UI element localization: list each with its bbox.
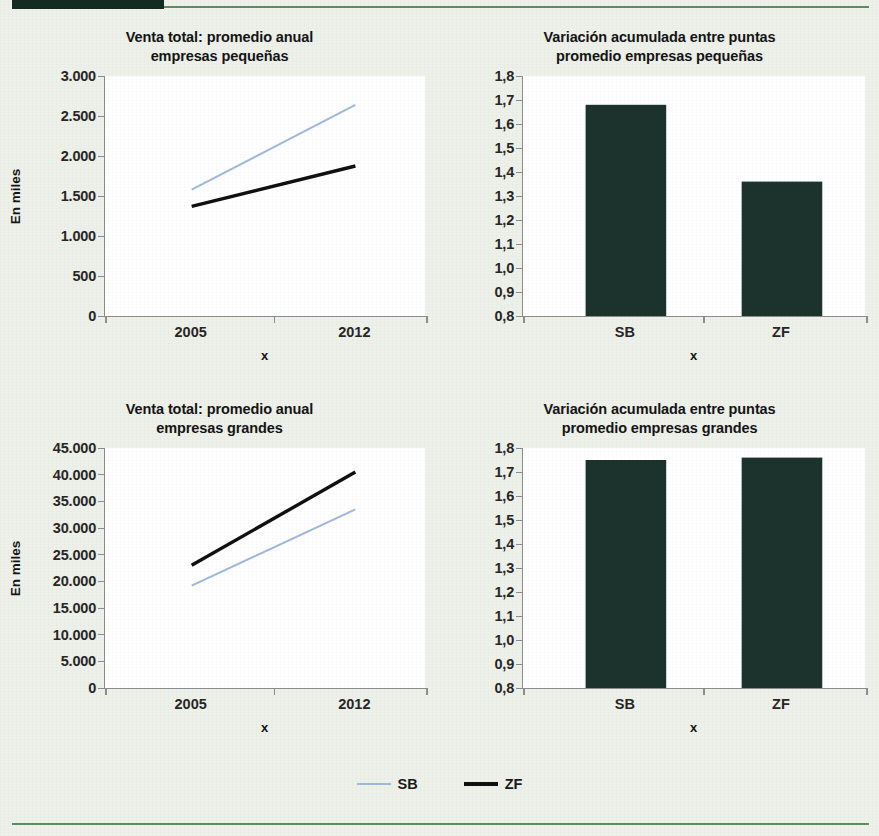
y-tick-label: 2.500 [61,109,96,123]
x-tick-label-group: 20052012 [104,316,425,342]
y-tick: 45.000 [32,441,104,455]
x-tick-label: 2005 [175,324,207,340]
panel-venta-total-pequenas: Venta total: promedio anual empresas peq… [0,18,439,388]
y-tick: 2.500 [32,109,104,123]
y-tick-label: 1,1 [494,609,514,623]
y-tick-label: 0 [88,309,96,323]
y-tick: 5.000 [32,654,104,668]
y-tick: 1,5 [460,513,522,527]
y-tick-label: 1,5 [494,141,514,155]
y-tick: 0 [32,681,104,695]
x-axis-title: x [522,720,865,735]
bar-series-svg [523,448,866,688]
x-tick-label: 2005 [175,696,207,712]
series-line-sb [192,509,356,585]
x-tick-label: SB [615,324,635,340]
y-tick-label: 1,0 [494,633,514,647]
y-tick: 20.000 [32,574,104,588]
x-tick-label-group: SBZF [522,316,865,342]
y-tick: 25.000 [32,548,104,562]
bar-sb [586,460,667,688]
y-tick-label: 1,0 [494,261,514,275]
x-tick-label: SB [615,696,635,712]
line-series-svg [105,76,426,316]
y-tick: 35.000 [32,494,104,508]
y-tick: 1,7 [460,465,522,479]
series-line-sb [192,105,356,190]
y-tick-label: 0,9 [494,657,514,671]
y-tick-label: 1.500 [61,189,96,203]
x-tick-label: ZF [772,696,790,712]
y-tick-label: 1,7 [494,465,514,479]
y-tick-label: 10.000 [53,628,96,642]
series-line-zf [192,166,356,206]
y-tick-label: 1,1 [494,237,514,251]
y-tick-label: 20.000 [53,574,96,588]
y-tick-label: 1,6 [494,117,514,131]
y-tick: 1,6 [460,489,522,503]
y-tick: 1,2 [460,213,522,227]
plot-area-wrapper: 0,80,91,01,11,21,31,41,51,61,71,8 SBZF x [440,448,879,748]
y-tick-label: 0 [88,681,96,695]
bar-sb [586,105,667,316]
y-tick-label: 5.000 [61,654,96,668]
y-axis-label-text: En miles [9,168,24,224]
panel-title: Variación acumulada entre puntas promedi… [440,400,879,438]
line-series-svg [105,448,426,688]
y-tick-label: 1,6 [494,489,514,503]
legend-item-zf: ZF [464,776,523,792]
y-axis-label: En miles [6,76,26,316]
footer-green-rule [12,823,869,825]
y-tick-group: 0,80,91,01,11,21,31,41,51,61,71,8 [460,76,522,316]
y-tick: 1,6 [460,117,522,131]
x-axis-title: x [522,348,865,363]
y-tick: 1,3 [460,561,522,575]
y-tick: 0,8 [460,681,522,695]
plot-area-wrapper: En miles 05.00010.00015.00020.00025.0003… [0,448,439,748]
y-tick-label: 1,4 [494,165,514,179]
panel-venta-total-grandes: Venta total: promedio anual empresas gra… [0,390,439,760]
y-tick-label: 45.000 [53,441,96,455]
y-tick-label: 15.000 [53,601,96,615]
x-tick-mark [426,689,428,695]
panel-variacion-grandes: Variación acumulada entre puntas promedi… [440,390,879,760]
panel-variacion-pequenas: Variación acumulada entre puntas promedi… [440,18,879,388]
y-tick-label: 25.000 [53,548,96,562]
y-tick-label: 1,3 [494,561,514,575]
y-tick: 1,0 [460,633,522,647]
legend-label: SB [398,776,418,792]
plot-area-wrapper: En miles 05001.0001.5002.0002.5003.000 2… [0,76,439,376]
y-tick-label: 1,3 [494,189,514,203]
y-tick: 1,1 [460,237,522,251]
series-line-zf [192,472,356,565]
y-tick: 1,8 [460,441,522,455]
x-axis-title: x [104,720,425,735]
x-tick-label: 2012 [338,324,370,340]
y-tick: 3.000 [32,69,104,83]
bar-series-svg [523,76,866,316]
panel-title: Variación acumulada entre puntas promedi… [440,28,879,66]
y-axis-label-text: En miles [9,540,24,596]
y-tick: 15.000 [32,601,104,615]
plot-canvas [104,76,425,316]
y-tick-label: 0,8 [494,681,514,695]
plot-canvas [104,448,425,688]
y-tick-label: 30.000 [53,521,96,535]
panel-title: Venta total: promedio anual empresas gra… [0,400,439,438]
y-tick: 1,4 [460,537,522,551]
y-tick: 1.500 [32,189,104,203]
y-tick-group: 05001.0001.5002.0002.5003.000 [32,76,104,316]
y-tick-label: 1,7 [494,93,514,107]
line-swatch-icon [464,782,498,786]
bar-zf [742,458,823,688]
y-tick: 1,7 [460,93,522,107]
line-swatch-icon [357,783,391,786]
y-tick-label: 40.000 [53,468,96,482]
x-tick-label: ZF [772,324,790,340]
y-tick-label: 3.000 [61,69,96,83]
y-tick-group: 0,80,91,01,11,21,31,41,51,61,71,8 [460,448,522,688]
y-axis-label: En miles [6,448,26,688]
x-tick-mark [866,689,868,695]
y-tick: 0,9 [460,657,522,671]
y-tick-label: 500 [72,269,96,283]
